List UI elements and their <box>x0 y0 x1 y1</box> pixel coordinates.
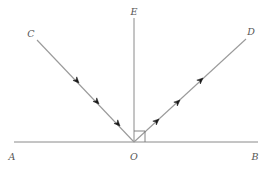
incident-arrow-icon <box>73 77 81 85</box>
label-d: D <box>246 26 255 37</box>
incident-arrow-icon <box>93 98 101 106</box>
label-e: E <box>130 6 138 17</box>
incident-arrow-icon <box>114 120 122 128</box>
label-a: A <box>8 151 16 162</box>
reflected-ray-od <box>134 39 246 142</box>
label-b: B <box>251 151 259 162</box>
label-c: C <box>27 28 35 39</box>
label-o: O <box>130 151 138 162</box>
reflection-diagram: A O B E C D <box>0 0 279 172</box>
incident-ray-co <box>37 40 134 142</box>
